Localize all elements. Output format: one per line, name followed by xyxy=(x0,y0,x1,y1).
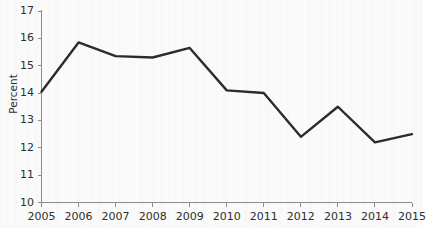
x-axis-ticks xyxy=(42,203,413,207)
x-tick-label: 2009 xyxy=(170,211,210,222)
y-tick-label: 17 xyxy=(6,5,34,16)
data-series-line xyxy=(42,42,413,142)
y-tick-label: 12 xyxy=(6,142,34,153)
x-tick-label: 2005 xyxy=(22,211,62,222)
y-axis-title: Percent xyxy=(7,64,19,124)
y-tick-label: 11 xyxy=(6,169,34,180)
x-tick-label: 2014 xyxy=(355,211,395,222)
x-tick-label: 2012 xyxy=(281,211,321,222)
x-tick-label: 2015 xyxy=(392,211,430,222)
y-tick-label: 16 xyxy=(6,32,34,43)
x-tick-label: 2006 xyxy=(59,211,99,222)
y-axis-ticks xyxy=(38,11,42,203)
x-tick-label: 2013 xyxy=(318,211,358,222)
y-tick-label: 10 xyxy=(6,197,34,208)
x-tick-label: 2007 xyxy=(96,211,136,222)
x-tick-label: 2011 xyxy=(244,211,284,222)
x-tick-label: 2008 xyxy=(133,211,173,222)
x-tick-label: 2010 xyxy=(207,211,247,222)
